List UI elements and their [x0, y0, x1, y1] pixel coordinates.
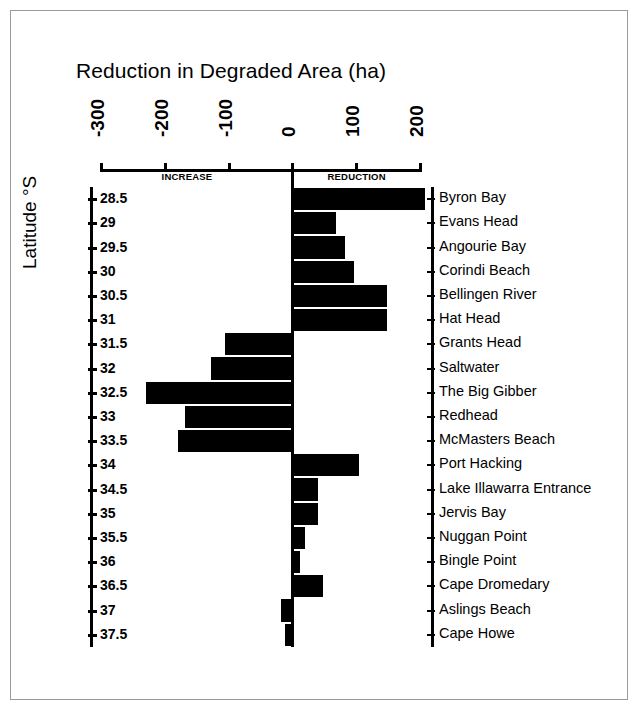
y-tick-label: 36.5: [100, 577, 127, 593]
site-tick: [427, 634, 435, 636]
y-tick-label: 37: [100, 602, 116, 618]
site-label: Bingle Point: [439, 552, 516, 568]
y-tick: [88, 247, 97, 250]
y-tick: [88, 198, 97, 201]
bar: [292, 503, 318, 525]
site-tick: [427, 392, 435, 394]
site-tick: [427, 513, 435, 515]
y-tick: [88, 537, 97, 540]
site-tick: [427, 368, 435, 370]
y-tick-label: 33: [100, 408, 116, 424]
y-tick: [88, 464, 97, 467]
site-label: Lake Illawarra Entrance: [439, 480, 591, 496]
y-axis-title: Latitude °S: [19, 176, 41, 269]
site-tick: [427, 585, 435, 587]
y-tick-label: 34.5: [100, 481, 127, 497]
y-tick-label: 28.5: [100, 190, 127, 206]
site-label: Redhead: [439, 407, 498, 423]
y-tick-label: 33.5: [100, 432, 127, 448]
site-tick: [427, 247, 435, 249]
bar: [285, 624, 293, 646]
y-tick-label: 34: [100, 456, 116, 472]
x-tick: [355, 163, 358, 172]
y-tick: [88, 585, 97, 588]
bar: [211, 357, 292, 379]
site-tick: [427, 343, 435, 345]
x-tick-label: -300: [87, 99, 109, 137]
site-label: Bellingen River: [439, 286, 537, 302]
y-tick-label: 37.5: [100, 626, 127, 642]
site-label: Jervis Bay: [439, 504, 506, 520]
reduction-zone-label: REDUCTION: [327, 171, 385, 182]
bar-chart: Reduction in Degraded Area (ha) Latitude…: [11, 11, 629, 701]
x-tick: [164, 163, 167, 172]
bar: [292, 236, 345, 258]
site-tick: [427, 440, 435, 442]
y-tick-label: 29.5: [100, 239, 127, 255]
bar: [292, 575, 323, 597]
y-tick-label: 32: [100, 360, 116, 376]
y-tick: [88, 416, 97, 419]
y-tick: [88, 561, 97, 564]
x-tick-label: 0: [278, 126, 300, 137]
site-label: Aslings Beach: [439, 601, 531, 617]
site-label: Nuggan Point: [439, 528, 527, 544]
site-label: McMasters Beach: [439, 431, 555, 447]
site-label: Port Hacking: [439, 455, 522, 471]
site-tick: [427, 198, 435, 200]
site-tick: [427, 416, 435, 418]
site-tick: [427, 464, 435, 466]
bar: [292, 478, 318, 500]
x-tick: [228, 163, 231, 172]
y-tick-label: 31.5: [100, 335, 127, 351]
y-tick-label: 30: [100, 263, 116, 279]
y-tick: [88, 319, 97, 322]
bar: [281, 599, 292, 621]
site-label: Byron Bay: [439, 189, 506, 205]
site-tick: [427, 319, 435, 321]
bar: [292, 454, 359, 476]
site-tick: [427, 222, 435, 224]
site-tick: [427, 489, 435, 491]
site-tick: [427, 295, 435, 297]
chart-title: Reduction in Degraded Area (ha): [11, 59, 451, 83]
site-label: The Big Gibber: [439, 383, 537, 399]
bar: [292, 527, 305, 549]
site-label: Angourie Bay: [439, 238, 526, 254]
increase-zone-label: INCREASE: [162, 171, 213, 182]
figure-frame: Reduction in Degraded Area (ha) Latitude…: [10, 10, 628, 700]
y-tick: [88, 343, 97, 346]
y-tick-label: 32.5: [100, 384, 127, 400]
y-tick: [88, 513, 97, 516]
x-tick-label: -200: [151, 99, 173, 137]
bar: [178, 430, 293, 452]
site-label: Grants Head: [439, 334, 521, 350]
bar: [292, 551, 300, 573]
site-label: Corindi Beach: [439, 262, 530, 278]
site-label: Hat Head: [439, 310, 500, 326]
y-tick: [88, 368, 97, 371]
site-label: Cape Howe: [439, 625, 515, 641]
site-tick: [427, 561, 435, 563]
y-tick: [88, 440, 97, 443]
site-label: Saltwater: [439, 359, 499, 375]
y-tick: [88, 392, 97, 395]
site-tick: [427, 271, 435, 273]
y-tick-label: 35: [100, 505, 116, 521]
bar: [146, 382, 293, 404]
bar: [225, 333, 292, 355]
y-tick-label: 30.5: [100, 287, 127, 303]
site-label: Evans Head: [439, 213, 518, 229]
y-tick: [88, 610, 97, 613]
site-label: Cape Dromedary: [439, 576, 549, 592]
x-tick: [100, 163, 103, 172]
site-tick: [427, 610, 435, 612]
bar: [185, 406, 292, 428]
bar: [292, 261, 354, 283]
bar: [292, 285, 386, 307]
bar: [292, 212, 335, 234]
y-tick: [88, 222, 97, 225]
y-tick-label: 35.5: [100, 529, 127, 545]
bar: [292, 309, 386, 331]
x-tick-label: 100: [342, 105, 364, 137]
